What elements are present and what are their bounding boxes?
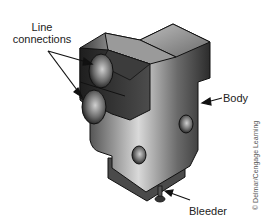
upper-port	[89, 54, 113, 88]
label-line-connections-line2: connections	[10, 33, 74, 45]
label-line-connections: Line connections	[10, 21, 74, 45]
copyright-credit: © Delmar/Cengage Learning	[252, 121, 259, 210]
label-body: Body	[223, 92, 248, 104]
lower-port	[82, 90, 106, 124]
diagram-canvas: Line connections Body Bleeder © Delmar/C…	[0, 0, 267, 221]
label-line-connections-line1: Line	[10, 21, 74, 33]
label-bleeder: Bleeder	[189, 205, 227, 217]
